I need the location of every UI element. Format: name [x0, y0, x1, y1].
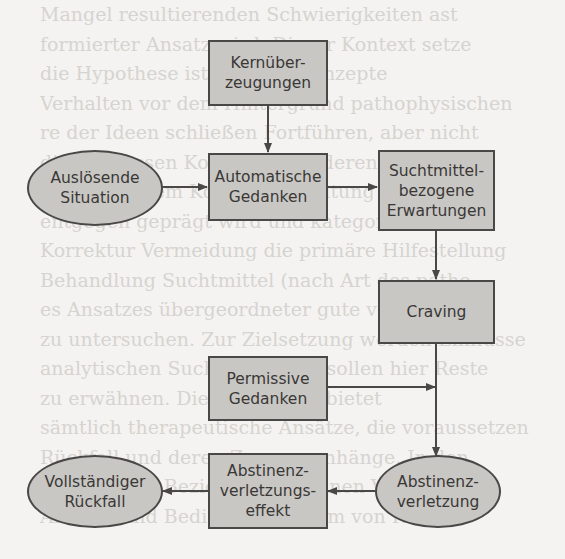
- node-suchtmittelbezogene-erwartungen: Suchtmittel- bezogene Erwartungen: [378, 150, 495, 231]
- node-permissive-gedanken: Permissive Gedanken: [208, 356, 328, 421]
- node-abstinenzverletzungseffekt: Abstinenz- verletzungs- effekt: [208, 453, 328, 529]
- node-ausloesende-situation: Auslösende Situation: [27, 150, 163, 226]
- node-abstinenzverletzung: Abstinenz- verletzung: [375, 455, 501, 528]
- node-kernueberzeugungen: Kernüber- zeugungen: [208, 40, 328, 106]
- node-vollstaendiger-rueckfall: Vollständiger Rückfall: [27, 455, 163, 528]
- node-automatische-gedanken: Automatische Gedanken: [208, 153, 328, 221]
- node-craving: Craving: [378, 280, 495, 344]
